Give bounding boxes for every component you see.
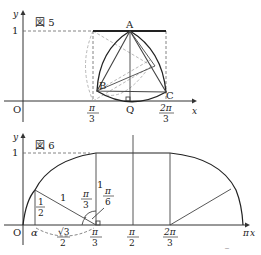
svg-text:3: 3 [83,200,89,210]
svg-text:3: 3 [89,114,95,124]
tick-2pi-over-3: 2π 3 [159,103,174,124]
right-angle-mark [126,97,130,101]
y-tick-1: 1 [12,147,18,158]
point-q-label: Q [126,104,134,115]
y-axis-arrow-icon [21,133,26,138]
point-c-label: C [166,90,174,101]
tick-2pi-over-3: 2π 3 [163,227,178,248]
triangle-abc [97,31,166,92]
partial-glyph: ‾ [225,247,229,255]
label-angle-pi3: π 3 [81,189,92,210]
svg-text:π: π [82,189,90,199]
pi6-pointer [92,208,104,219]
y-axis-label: y [12,9,19,19]
svg-text:π: π [104,186,112,196]
alpha-label: α [31,227,38,238]
svg-text:π: π [88,103,96,113]
figure-6: 図 6 y 1 O α π x 1 2 1 1 π 3 π 6 √3 2 π [4,132,255,248]
svg-text:1: 1 [38,197,44,207]
y-axis-arrow-icon [21,10,26,15]
label-vertical-one: 1 [97,179,103,190]
svg-text:2: 2 [129,238,135,248]
tick-pi: π [242,228,250,238]
svg-text:2: 2 [38,208,44,218]
x-axis-label: x [192,106,197,116]
svg-text:π: π [128,227,136,237]
figure5-title: 図 5 [35,17,55,28]
svg-text:6: 6 [105,197,111,207]
y-axis-label: y [12,132,19,142]
slant-segment-right [170,189,231,225]
label-slant-one: 1 [60,192,66,203]
origin-label: O [13,104,21,115]
point-b-label: B [99,80,106,91]
point-a-label: A [125,19,134,30]
svg-text:π: π [91,227,99,237]
x-axis-label: x [250,228,255,238]
figure-5: 図 5 y x 1 O A B C Q π 3 2π 3 [4,9,197,124]
svg-text:2π: 2π [163,227,177,237]
origin-label: O [13,227,21,238]
label-sqrt3-over-2: √3 2 [57,227,70,248]
tick-pi-over-2: π 2 [127,227,139,248]
y-tick-1: 1 [12,25,18,36]
tick-pi-over-3: π 3 [87,103,99,124]
svg-text:3: 3 [163,114,169,124]
dashed-arc-left [86,31,94,101]
tick-pi-over-3: π 3 [90,227,102,248]
svg-text:3: 3 [92,238,98,248]
svg-text:2: 2 [60,238,66,248]
x-axis-arrow-icon [192,99,197,104]
svg-text:√3: √3 [58,227,70,237]
figure6-title: 図 6 [35,140,55,151]
label-one-half: 1 2 [36,197,45,218]
svg-text:2π: 2π [159,103,173,113]
right-angle-mark [96,221,100,225]
svg-text:3: 3 [167,238,173,248]
x-axis-arrow-icon [245,223,250,228]
label-angle-pi6: π 6 [103,186,114,207]
